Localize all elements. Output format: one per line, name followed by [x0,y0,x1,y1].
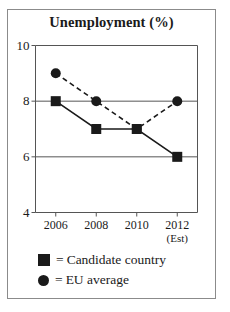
x-tick-label-estimate-note: (Est) [151,232,203,244]
x-tick-label-year: 2012 [165,218,189,232]
legend-item-eu-average: = EU average [38,270,210,290]
y-tick-label: 10 [8,39,30,52]
square-marker-icon [38,254,50,266]
y-tick-label: 4 [8,206,30,219]
chart-figure: Unemployment (%) 46810 2006200820102012(… [0,0,230,312]
y-tick-label: 8 [8,94,30,107]
x-tick-label: 2012(Est) [151,219,203,244]
x-tick-label-year: 2006 [44,218,68,232]
series-lines [56,73,178,156]
y-tick-label: 6 [8,150,30,163]
x-tick-label-year: 2010 [125,218,149,232]
x-tick-label-year: 2008 [84,218,108,232]
legend-label-candidate-country: Candidate country [67,252,166,268]
legend-equals-sign: = [55,272,63,288]
legend-item-candidate-country: = Candidate country [38,250,210,270]
chart-legend: = Candidate country = EU average [38,250,210,290]
circle-marker-icon [38,275,49,286]
legend-equals-sign: = [56,252,64,268]
legend-label-eu-average: EU average [66,272,129,288]
series-markers [51,68,183,161]
